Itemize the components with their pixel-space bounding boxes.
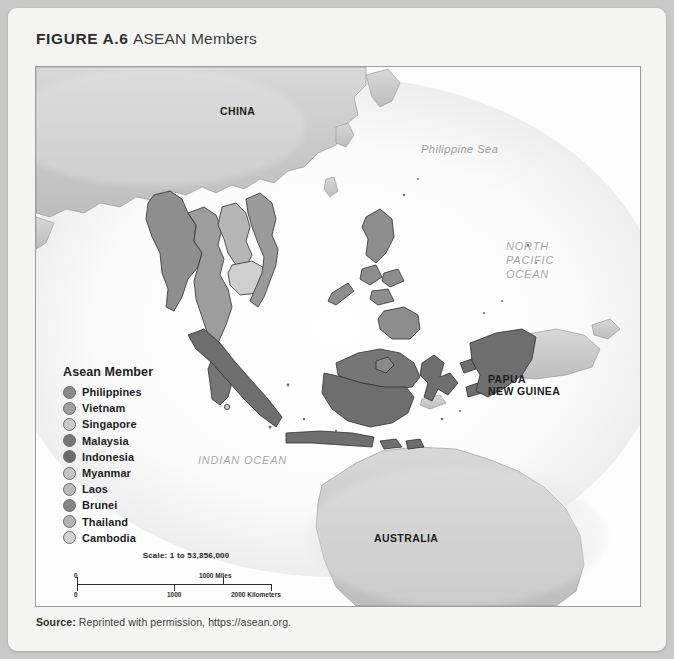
legend-item-list: PhilippinesVietnamSingaporeMalaysiaIndon… <box>63 384 153 546</box>
map-frame[interactable]: CHINA PAPUANEW GUINEA AUSTRALIA Philippi… <box>35 66 641 607</box>
source-line: Source: Reprinted with permission, https… <box>36 616 291 628</box>
legend-swatch-icon <box>63 467 76 480</box>
legend-item-label: Laos <box>82 483 108 495</box>
scale-km-mid-label: 1000 <box>167 591 181 598</box>
legend-item-label: Cambodia <box>82 532 136 544</box>
scale-ratio-text: Scale: 1 to 53,856,000 <box>81 551 291 560</box>
map-legend: Asean Member PhilippinesVietnamSingapore… <box>63 365 153 546</box>
figure-title: FIGURE A.6 ASEAN Members <box>36 30 257 48</box>
figure-number: FIGURE A.6 <box>36 30 128 47</box>
scale-tick-km-start <box>77 584 78 591</box>
legend-swatch-icon <box>63 450 76 463</box>
legend-item-brunei[interactable]: Brunei <box>63 497 153 513</box>
legend-item-label: Thailand <box>82 516 128 528</box>
scale-graphic: 0 1000 Miles 0 1000 2000 Kilometers <box>71 572 271 598</box>
scale-tick-km-mid <box>174 584 175 591</box>
legend-item-label: Malaysia <box>82 435 129 447</box>
legend-item-label: Brunei <box>82 499 117 511</box>
legend-item-malaysia[interactable]: Malaysia <box>63 433 153 449</box>
scale-miles-end-label: 1000 Miles <box>199 572 232 579</box>
legend-item-philippines[interactable]: Philippines <box>63 384 153 400</box>
figure-card: FIGURE A.6 ASEAN Members <box>8 8 666 651</box>
legend-swatch-icon <box>63 418 76 431</box>
legend-swatch-icon <box>63 434 76 447</box>
scale-km-end-label: 2000 Kilometers <box>231 591 281 598</box>
legend-item-singapore[interactable]: Singapore <box>63 416 153 432</box>
legend-swatch-icon <box>63 499 76 512</box>
scale-tick-km-end <box>271 584 272 591</box>
legend-swatch-icon <box>63 483 76 496</box>
source-label: Source: <box>36 616 76 628</box>
legend-swatch-icon <box>63 402 76 415</box>
legend-item-label: Myanmar <box>82 467 131 479</box>
scale-miles-start-label: 0 <box>74 572 78 579</box>
legend-item-cambodia[interactable]: Cambodia <box>63 530 153 546</box>
legend-swatch-icon <box>63 386 76 399</box>
legend-item-laos[interactable]: Laos <box>63 481 153 497</box>
legend-item-vietnam[interactable]: Vietnam <box>63 400 153 416</box>
legend-item-label: Vietnam <box>82 402 125 414</box>
legend-swatch-icon <box>63 531 76 544</box>
legend-item-label: Philippines <box>82 386 142 398</box>
legend-item-label: Singapore <box>82 418 137 430</box>
legend-item-myanmar[interactable]: Myanmar <box>63 465 153 481</box>
map-scale-bar: Scale: 1 to 53,856,000 0 1000 Miles 0 10… <box>71 551 291 598</box>
legend-title: Asean Member <box>63 365 153 379</box>
legend-item-thailand[interactable]: Thailand <box>63 514 153 530</box>
scale-km-start-label: 0 <box>74 591 78 598</box>
legend-swatch-icon <box>63 515 76 528</box>
source-text: Reprinted with permission, https://asean… <box>76 616 291 628</box>
legend-item-label: Indonesia <box>82 451 134 463</box>
legend-item-indonesia[interactable]: Indonesia <box>63 449 153 465</box>
figure-caption: ASEAN Members <box>133 30 257 47</box>
